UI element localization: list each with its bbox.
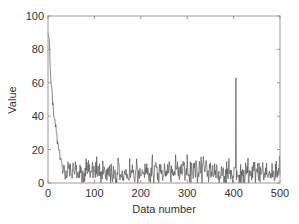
- x-tick-label: 0: [45, 187, 51, 199]
- x-axis-label: Data number: [132, 203, 196, 215]
- x-tick-label: 100: [85, 187, 103, 199]
- plot-frame: [48, 16, 280, 183]
- y-tick-label: 20: [32, 144, 44, 156]
- y-tick-label: 60: [32, 77, 44, 89]
- y-axis-label: Value: [6, 86, 18, 113]
- line-chart: 0100200300400500 020406080100 Data numbe…: [0, 0, 299, 224]
- y-tick-label: 100: [26, 10, 44, 22]
- x-tick-label: 400: [224, 187, 242, 199]
- data-series-line: [48, 33, 280, 183]
- x-tick-label: 200: [132, 187, 150, 199]
- y-tick-label: 0: [38, 177, 44, 189]
- x-tick-label: 500: [271, 187, 289, 199]
- y-tick-label: 80: [32, 43, 44, 55]
- x-tick-label: 300: [178, 187, 196, 199]
- y-tick-label: 40: [32, 110, 44, 122]
